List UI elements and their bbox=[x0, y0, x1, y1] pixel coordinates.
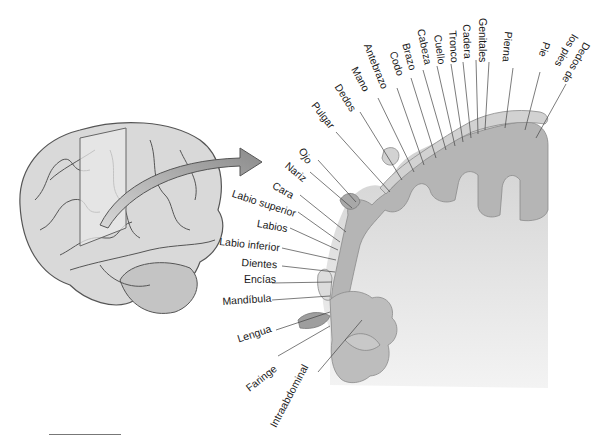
label-dientes: Dientes bbox=[241, 257, 277, 270]
label-tronco: Tronco bbox=[448, 30, 461, 63]
motor-homunculus-figure: Pulgar Dedos Mano Antebrazo Codo Brazo C… bbox=[0, 0, 597, 436]
label-genitales: Genitales bbox=[478, 18, 489, 62]
label-pierna: Pierna bbox=[501, 31, 514, 62]
label-encias: Encías bbox=[244, 274, 276, 285]
label-cadera: Cadera bbox=[462, 24, 474, 59]
divider-line bbox=[49, 434, 121, 435]
brain-illustration bbox=[20, 123, 223, 314]
